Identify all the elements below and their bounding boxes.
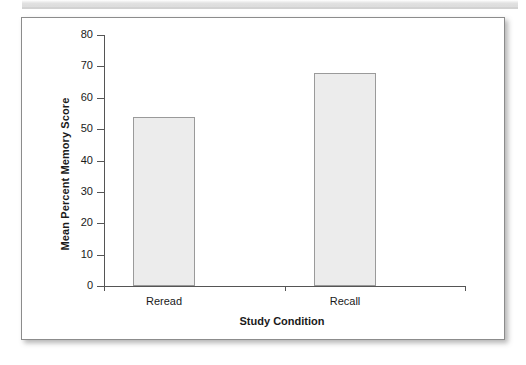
scanned-page-edge-band: [22, 0, 518, 9]
y-axis-tick-20: 20: [97, 223, 104, 224]
x-axis-tick-middle: [285, 286, 286, 291]
x-axis-tick-right: [465, 286, 466, 291]
y-axis-tick-10: 10: [97, 255, 104, 256]
category-label-recall: Recall: [330, 295, 361, 307]
category-label-reread: Reread: [146, 295, 182, 307]
x-axis-tick-left: [104, 286, 105, 291]
x-axis-label-text: Study Condition: [240, 315, 325, 327]
y-axis-tick-label-50: 50: [81, 122, 93, 134]
plot-area: Mean Percent Memory Score 01020304050607…: [22, 18, 506, 341]
y-axis-tick-label-20: 20: [81, 216, 93, 228]
y-axis-tick-0: 0: [97, 286, 104, 287]
y-axis-tick-label-30: 30: [81, 185, 93, 197]
bar-reread: [133, 117, 195, 286]
y-axis-line: [104, 35, 105, 286]
x-axis-label: Study Condition: [22, 315, 506, 327]
y-axis-tick-60: 60: [97, 98, 104, 99]
y-axis-tick-40: 40: [97, 161, 104, 162]
y-axis-tick-30: 30: [97, 192, 104, 193]
y-axis-tick-label-70: 70: [81, 59, 93, 71]
y-axis-tick-50: 50: [97, 129, 104, 130]
y-axis-tick-label-60: 60: [81, 91, 93, 103]
figure-page: Mean Percent Memory Score 01020304050607…: [0, 0, 526, 365]
figure-card: Mean Percent Memory Score 01020304050607…: [21, 17, 505, 340]
y-axis-tick-80: 80: [97, 35, 104, 36]
y-axis-tick-70: 70: [97, 66, 104, 67]
bar-recall: [314, 73, 376, 286]
y-axis-tick-label-10: 10: [81, 248, 93, 260]
y-axis-tick-label-80: 80: [81, 28, 93, 40]
y-axis-tick-label-0: 0: [87, 279, 93, 291]
y-axis-tick-label-40: 40: [81, 154, 93, 166]
y-axis-label: Mean Percent Memory Score: [59, 74, 71, 274]
